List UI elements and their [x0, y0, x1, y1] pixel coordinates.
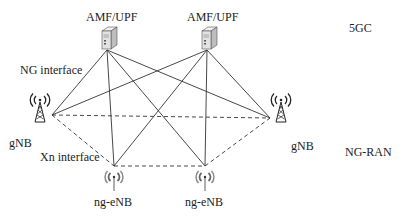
node-label-amf-upf-1: AMF/UPF: [86, 11, 137, 23]
cell-tower-icon: [30, 94, 50, 123]
network-diagram: [0, 0, 403, 218]
link-amf1-ngenb-left: [107, 50, 114, 166]
node-label-ng-enb-left: ng-eNB: [94, 196, 132, 208]
ng-interface-links: [52, 50, 270, 166]
link-amf2-ngenb-left: [114, 50, 207, 166]
layer-label-5gc: 5GC: [349, 22, 372, 34]
xn-ngenb-right-gnb-right: [205, 118, 270, 166]
layer-label-ng-ran: NG-RAN: [345, 146, 392, 158]
xn-gnb-left-gnb-right: [52, 115, 270, 118]
link-amf2-ngenb-right: [205, 50, 207, 166]
interface-label-ng: NG interface: [20, 64, 82, 76]
link-amf1-gnb-right: [107, 50, 270, 118]
cell-tower-icon: [271, 94, 291, 123]
node-label-gnb-right: gNB: [291, 140, 314, 152]
server-icon: [202, 27, 217, 49]
link-amf2-gnb-right: [207, 50, 270, 118]
node-label-amf-upf-2: AMF/UPF: [187, 11, 238, 23]
interface-label-xn: Xn interface: [40, 151, 100, 163]
link-amf1-gnb-left: [52, 50, 107, 115]
node-label-gnb-left: gNB: [9, 137, 32, 149]
server-icon: [102, 27, 117, 49]
antenna-icon: [196, 171, 214, 191]
link-amf1-ngenb-right: [107, 50, 205, 166]
antenna-icon: [105, 171, 123, 191]
node-label-ng-enb-right: ng-eNB: [185, 196, 223, 208]
